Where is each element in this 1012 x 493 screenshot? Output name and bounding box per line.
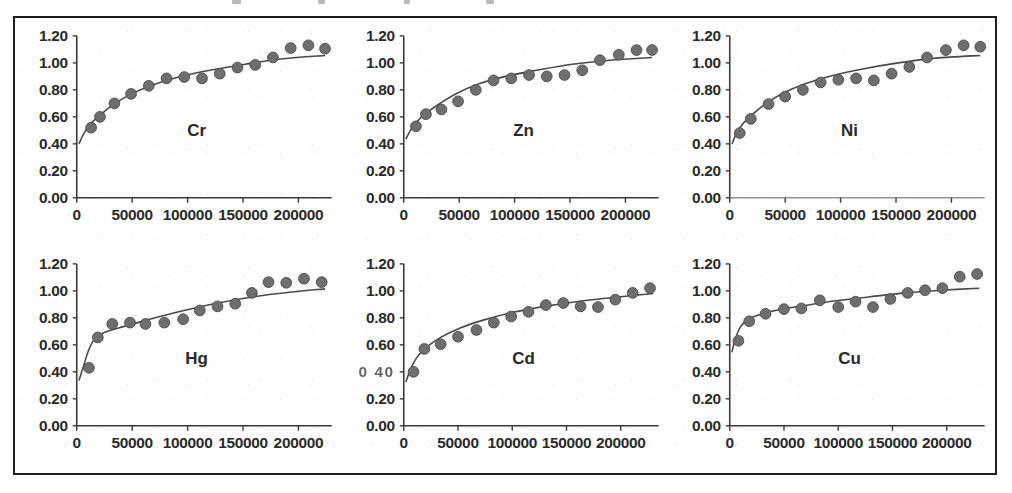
data-point-marker [815,294,826,305]
data-point-marker [419,343,430,354]
data-point-marker [592,301,603,312]
y-tick-label: 0.40 [366,135,395,152]
x-tick-label: 150000 [218,206,268,223]
y-tick-label: 0.60 [692,335,721,352]
data-point-marker [627,287,638,298]
data-point-marker [408,366,419,377]
y-tick-label: 1.00 [39,281,68,298]
chart-panel-cu: 1.201.000.800.600.400.200.00050000100000… [668,246,995,474]
data-point-marker [780,91,791,102]
chart-panel-hg: 1.201.000.800.600.400.200.00050000100000… [15,246,342,474]
y-tick-label: 0.40 [692,135,721,152]
y-tick-label: 0.00 [39,189,68,206]
data-point-marker [523,70,534,81]
data-point-marker [887,68,898,79]
y-tick-label: 0.20 [39,389,68,406]
data-point-marker [452,331,463,342]
data-point-marker [577,65,588,76]
x-tick-label: 150000 [868,433,918,450]
data-point-marker [420,109,431,120]
data-point-marker [816,77,827,88]
data-point-marker [851,73,862,84]
x-tick-label: 0 [726,206,734,223]
data-point-marker [505,311,516,322]
x-tick-label: 200000 [274,206,324,223]
plot-area-ni: 1.201.000.800.600.400.200.00050000100000… [668,18,995,246]
data-point-marker [488,75,499,86]
series-label-hg: Hg [185,349,208,368]
series-label-ni: Ni [841,121,858,140]
data-point-marker [299,273,310,284]
x-tick-label: 50000 [437,433,478,450]
data-point-marker [558,297,569,308]
data-point-marker [285,43,296,54]
series-label-zn: Zn [513,121,534,140]
y-tick-label: 0.60 [692,108,721,125]
data-point-marker [885,293,896,304]
y-tick-label: 0.60 [366,108,395,125]
x-tick-label: 150000 [541,433,591,450]
data-point-marker [92,332,103,343]
y-tick-label: 0.00 [39,416,68,433]
x-tick-label: 100000 [163,206,213,223]
y-tick-label: 0.00 [692,416,721,433]
y-tick-label: 0.20 [692,162,721,179]
y-tick-label: 0 40 [358,362,394,379]
data-point-marker [250,60,261,71]
y-tick-label: 0.20 [39,162,68,179]
plot-area-cu: 1.201.000.800.600.400.200.00050000100000… [668,246,995,474]
x-tick-label: 100000 [814,433,864,450]
data-point-marker [109,98,120,109]
y-tick-label: 0.80 [692,81,721,98]
data-point-marker [920,284,931,295]
data-point-marker [851,296,862,307]
y-tick-label: 1.20 [692,254,721,271]
data-point-marker [126,89,137,100]
x-tick-label: 100000 [487,433,537,450]
data-point-marker [470,84,481,95]
data-point-marker [959,40,970,51]
data-point-marker [541,71,552,82]
y-tick-label: 1.20 [39,27,68,44]
plot-area-cr: 1.201.000.800.600.400.200.00050000100000… [15,18,342,246]
y-tick-label: 0.00 [366,189,395,206]
data-point-marker [247,287,258,298]
data-point-marker [179,72,190,83]
data-point-marker [436,104,447,115]
plot-area-hg: 1.201.000.800.600.400.200.00050000100000… [15,246,342,474]
data-point-marker [644,282,655,293]
y-tick-label: 0.80 [366,81,395,98]
data-point-marker [125,317,136,328]
data-point-marker [904,62,915,73]
x-tick-label: 100000 [489,206,539,223]
data-point-marker [779,303,790,314]
x-tick-label: 50000 [765,206,806,223]
chart-panel-cd: 1.201.000.800.600 400.200.00050000100000… [342,246,669,474]
x-tick-label: 200000 [600,206,650,223]
chart-panel-zn: 1.201.000.800.600.400.200.00050000100000… [342,18,669,246]
x-tick-label: 200000 [927,206,977,223]
data-point-marker [212,301,223,312]
data-point-marker [159,317,170,328]
y-tick-label: 0.00 [692,189,721,206]
data-point-marker [937,282,948,293]
x-tick-label: 200000 [274,433,324,450]
data-point-marker [955,271,966,282]
x-tick-label: 0 [73,206,81,223]
plot-area-zn: 1.201.000.800.600.400.200.00050000100000… [342,18,669,246]
data-point-marker [107,318,118,329]
data-point-marker [559,70,570,81]
data-point-marker [84,362,95,373]
data-point-marker [735,128,746,139]
data-point-marker [523,306,534,317]
data-point-marker [197,73,208,84]
x-tick-label: 0 [399,206,407,223]
data-point-marker [410,121,421,132]
data-point-marker [763,99,774,110]
data-point-marker [744,315,755,326]
data-point-marker [746,114,757,125]
y-tick-label: 0.40 [39,135,68,152]
data-point-marker [263,276,274,287]
data-point-marker [613,49,624,60]
data-point-marker [975,41,986,52]
